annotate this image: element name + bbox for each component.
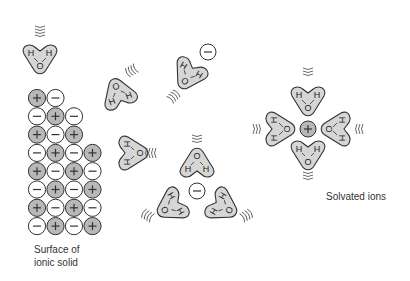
dissolution-diagram: H H O H H O — [0, 0, 410, 281]
water-molecule-cation-left — [266, 112, 295, 146]
water-waves-top-left — [35, 26, 45, 37]
solvated-anion-cluster — [140, 135, 253, 229]
water-molecule-cation-top — [291, 87, 325, 116]
water-molecule-free-4 — [119, 136, 148, 170]
water-molecule-anion-top — [180, 148, 214, 177]
ionic-solid-surface — [28, 89, 101, 234]
water-molecule-free-2 — [97, 73, 139, 111]
solvated-cation-cluster — [253, 68, 363, 180]
water-molecule-cation-bottom — [291, 141, 325, 170]
water-waves-2 — [124, 64, 138, 78]
free-anion — [200, 44, 216, 60]
label-surface-line2: ionic solid — [34, 256, 78, 269]
water-molecule-anion-left — [150, 185, 192, 229]
water-waves-3 — [166, 89, 180, 103]
water-molecule-free-1 — [23, 45, 57, 74]
water-molecule-cation-right — [321, 112, 350, 146]
label-surface-line1: Surface of — [34, 243, 80, 256]
water-molecule-anion-right — [203, 185, 245, 229]
label-solvated-ions: Solvated ions — [326, 190, 386, 203]
